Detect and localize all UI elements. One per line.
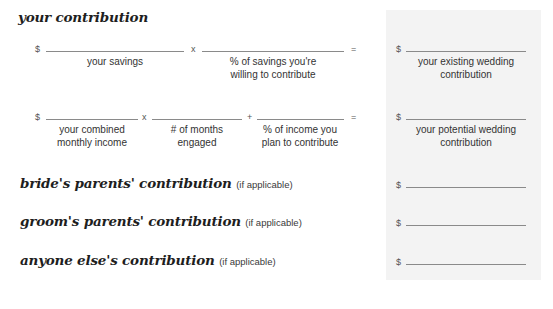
potential-contribution-input-line[interactable] bbox=[406, 119, 526, 120]
anyone-else-heading: anyone else's contribution bbox=[20, 252, 215, 268]
currency-symbol: $ bbox=[396, 112, 401, 122]
potential-contribution-label-line1: your potential wedding bbox=[396, 124, 536, 137]
grooms-parents-heading: groom's parents' contribution bbox=[20, 213, 241, 229]
potential-contribution-label-line2: contribution bbox=[396, 137, 536, 150]
months-engaged-input-line[interactable] bbox=[152, 119, 242, 120]
section-title-grooms-parents: groom's parents' contribution (if applic… bbox=[20, 213, 302, 229]
section-title-anyone-else: anyone else's contribution (if applicabl… bbox=[20, 252, 276, 268]
savings-percent-label-line2: willing to contribute bbox=[202, 69, 344, 82]
income-percent-input-line[interactable] bbox=[257, 119, 344, 120]
currency-symbol: $ bbox=[396, 257, 401, 267]
if-applicable-note: (if applicable) bbox=[245, 217, 302, 228]
grooms-parents-input-line[interactable] bbox=[406, 225, 526, 226]
income-percent-label-line2: plan to contribute bbox=[250, 137, 350, 150]
savings-label: your savings bbox=[46, 56, 184, 69]
multiply-operator: x bbox=[142, 112, 147, 122]
currency-symbol: $ bbox=[35, 112, 40, 122]
brides-parents-input-line[interactable] bbox=[406, 187, 526, 188]
currency-symbol: $ bbox=[396, 44, 401, 54]
currency-symbol: $ bbox=[396, 180, 401, 190]
if-applicable-note: (if applicable) bbox=[236, 179, 293, 190]
plus-operator: + bbox=[247, 112, 252, 122]
months-engaged-label: # of months engaged bbox=[150, 124, 244, 149]
currency-symbol: $ bbox=[35, 44, 40, 54]
currency-symbol: $ bbox=[396, 218, 401, 228]
potential-contribution-label: your potential wedding contribution bbox=[396, 124, 536, 149]
savings-percent-label-line1: % of savings you're bbox=[202, 56, 344, 69]
existing-contribution-input-line[interactable] bbox=[406, 51, 526, 52]
anyone-else-input-line[interactable] bbox=[406, 264, 526, 265]
equals-operator: = bbox=[351, 44, 356, 54]
savings-input-line[interactable] bbox=[46, 51, 184, 52]
equals-operator: = bbox=[351, 112, 356, 122]
existing-contribution-label-line2: contribution bbox=[396, 69, 536, 82]
savings-percent-label: % of savings you're willing to contribut… bbox=[202, 56, 344, 81]
existing-contribution-label-line1: your existing wedding bbox=[396, 56, 536, 69]
monthly-income-label: your combined monthly income bbox=[40, 124, 144, 149]
brides-parents-heading: bride's parents' contribution bbox=[20, 175, 232, 191]
months-engaged-label-line2: engaged bbox=[150, 137, 244, 150]
monthly-income-label-line1: your combined bbox=[40, 124, 144, 137]
section-title-your-contribution: your contribution bbox=[18, 9, 148, 25]
multiply-operator: x bbox=[191, 44, 196, 54]
income-percent-label: % of income you plan to contribute bbox=[250, 124, 350, 149]
existing-contribution-label: your existing wedding contribution bbox=[396, 56, 536, 81]
if-applicable-note: (if applicable) bbox=[219, 256, 276, 267]
monthly-income-label-line2: monthly income bbox=[40, 137, 144, 150]
section-title-brides-parents: bride's parents' contribution (if applic… bbox=[20, 175, 293, 191]
months-engaged-label-line1: # of months bbox=[150, 124, 244, 137]
savings-percent-input-line[interactable] bbox=[202, 51, 344, 52]
monthly-income-input-line[interactable] bbox=[46, 119, 138, 120]
income-percent-label-line1: % of income you bbox=[250, 124, 350, 137]
